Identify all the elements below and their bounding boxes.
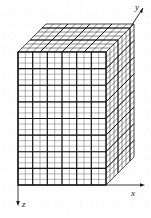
axis-y-label: y — [134, 2, 139, 12]
axis-z-label: z — [21, 199, 26, 209]
figure-canvas: y x z — [0, 0, 151, 218]
axis-x: x — [18, 183, 145, 198]
box-side-face — [106, 24, 134, 185]
box-front-face — [18, 52, 106, 185]
axis-x-label: x — [130, 188, 135, 198]
grid-box-diagram: y x z — [0, 0, 151, 218]
